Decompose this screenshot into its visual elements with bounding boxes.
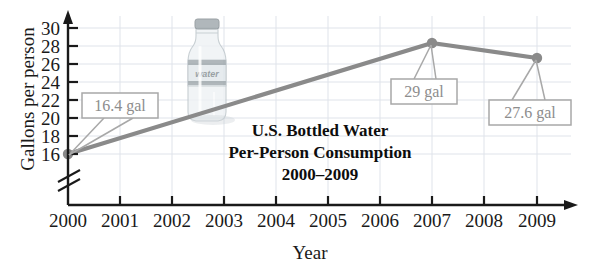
x-tick-label-2008: 2008 [465, 210, 503, 231]
chart-title-line-1: U.S. Bottled Water [252, 121, 389, 140]
chart-canvas: water [0, 0, 589, 272]
x-tick-label-2007: 2007 [413, 210, 451, 231]
data-point-2007 [427, 38, 437, 48]
x-axis: 2000 2001 2002 2003 2004 2005 2006 2007 … [49, 196, 578, 231]
x-tick-label-2001: 2001 [101, 210, 139, 231]
y-axis: 30 28 26 24 22 20 18 16 [41, 10, 80, 205]
x-tick-label-2005: 2005 [309, 210, 347, 231]
bottled-water-consumption-chart: Gallons per person Year [0, 0, 589, 272]
x-tick-label-2004: 2004 [257, 210, 296, 231]
x-tick-label-2003: 2003 [205, 210, 243, 231]
callout-16-4-gal: 16.4 gal [69, 93, 158, 155]
x-tick-label-2009: 2009 [518, 210, 556, 231]
x-tick-label-2006: 2006 [361, 210, 399, 231]
bottle-label-stripe-bottom [188, 81, 226, 85]
callout-label-first: 16.4 gal [94, 97, 146, 115]
x-tick-label-2000: 2000 [49, 210, 87, 231]
y-tick-label-16: 16 [41, 144, 60, 165]
y-axis-arrowhead [63, 10, 73, 24]
x-tick-label-2002: 2002 [153, 210, 191, 231]
chart-title-line-2: Per-Person Consumption [228, 143, 412, 162]
callout-label-peak: 29 gal [404, 83, 444, 101]
chart-title-line-3: 2000–2009 [282, 165, 359, 184]
bottle-label-stripe-top [188, 60, 226, 65]
callout-leader-2a [414, 45, 431, 79]
bottle-cap [195, 19, 219, 29]
chart-title: U.S. Bottled Water Per-Person Consumptio… [228, 121, 412, 184]
callout-leader-3a [512, 60, 536, 100]
callout-label-last: 27.6 gal [504, 104, 556, 122]
callout-27-6-gal: 27.6 gal [489, 60, 571, 125]
x-axis-arrowhead [564, 200, 578, 210]
